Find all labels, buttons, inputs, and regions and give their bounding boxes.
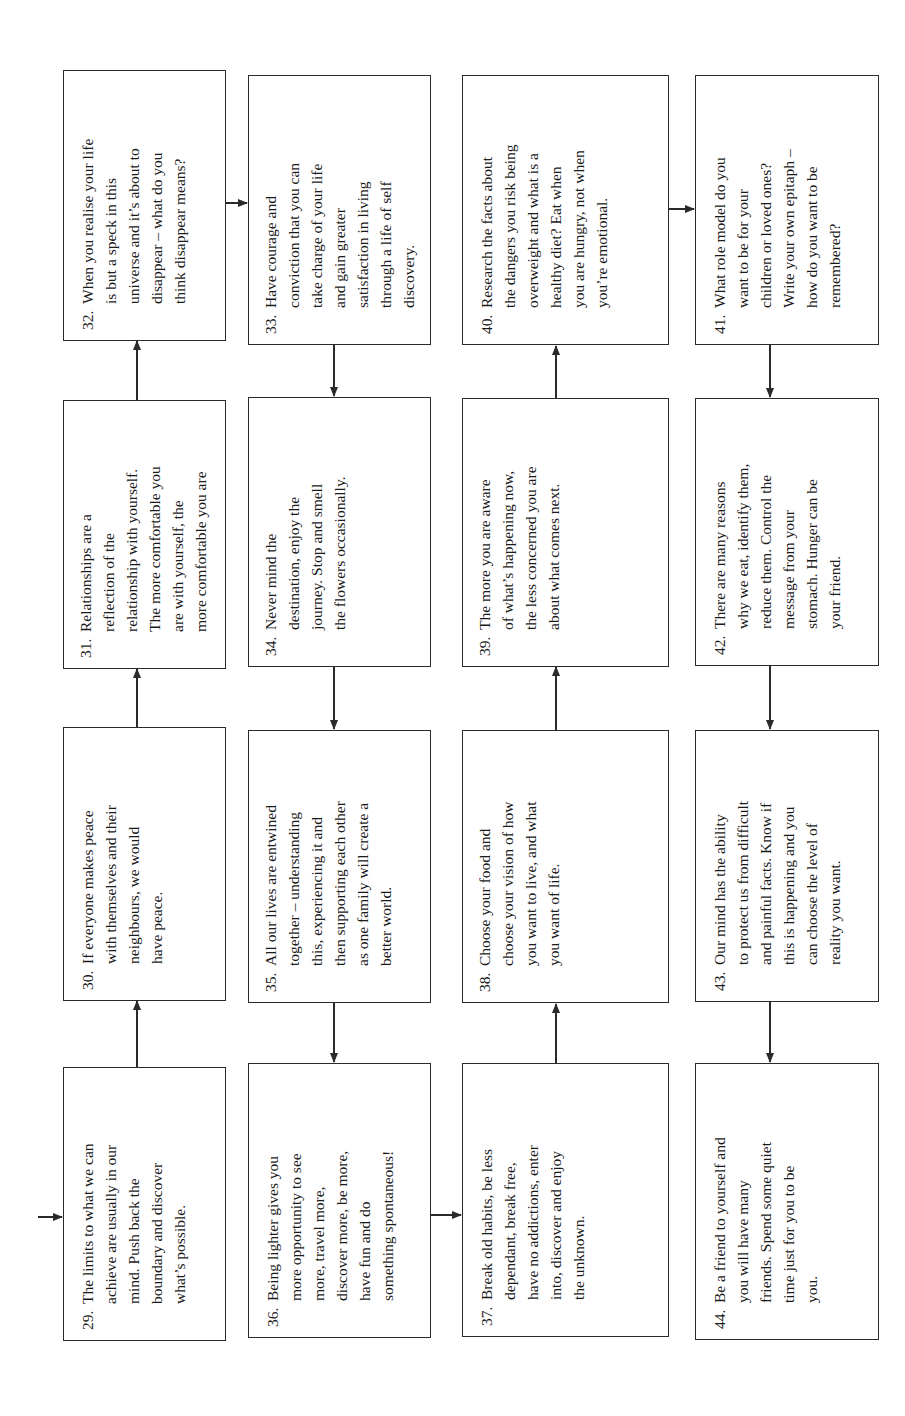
step-text: What role model do you want to be for yo… (708, 84, 846, 308)
step-box-35: 35.All our lives are entwined together –… (248, 730, 431, 1003)
step-text: The limits to what we can achieve are us… (76, 1076, 191, 1304)
step-box-39: 39.The more you are aware of what’s happ… (462, 398, 669, 667)
step-text: When you realise your life is but a spec… (76, 81, 191, 304)
step-box-34: 34.Never mind the destination, enjoy the… (248, 397, 431, 667)
step-box-29: 29.The limits to what we can achieve are… (63, 1067, 226, 1341)
step-text: Relationships are a reflection of the re… (74, 407, 212, 632)
step-number: 42. (708, 629, 846, 655)
step-number: 39. (473, 630, 565, 656)
step-box-38: 38.Choose your food and choose your visi… (462, 730, 669, 1003)
step-number: 43. (708, 965, 846, 991)
step-text: The more you are aware of what’s happeni… (473, 407, 565, 630)
step-text: Our mind has the ability to protect us f… (708, 739, 846, 965)
step-box-30: 30.If everyone makes peace with themselv… (63, 727, 226, 1001)
step-number: 31. (74, 632, 212, 658)
step-text: If everyone makes peace with themselves … (76, 736, 168, 964)
step-number: 36. (261, 1301, 399, 1327)
step-number: 38. (473, 966, 565, 992)
step-box-32: 32.When you realise your life is but a s… (63, 70, 226, 341)
step-box-44: 44.Be a friend to yourself and you will … (695, 1063, 879, 1340)
step-text: Research the facts about the dangers you… (475, 84, 613, 308)
step-box-37: 37.Break old habits, be less dependant, … (462, 1063, 669, 1337)
step-text: All our lives are entwined together – un… (259, 737, 397, 966)
step-number: 44. (708, 1303, 823, 1329)
step-text: Choose your food and choose your vision … (473, 739, 565, 966)
step-number: 30. (76, 964, 168, 990)
step-box-31: 31.Relationships are a reflection of the… (63, 400, 226, 669)
step-number: 40. (475, 308, 613, 334)
step-text: Being lighter gives you more opportunity… (261, 1072, 399, 1301)
step-box-41: 41.What role model do you want to be for… (695, 75, 879, 345)
step-box-40: 40.Research the facts about the dangers … (462, 75, 669, 345)
step-text: Have courage and conviction that you can… (259, 84, 420, 308)
step-number: 33. (259, 308, 420, 334)
step-text: Never mind the destination, enjoy the jo… (259, 406, 351, 630)
step-box-43: 43.Our mind has the ability to protect u… (695, 730, 879, 1002)
step-number: 41. (708, 308, 846, 334)
step-text: Be a friend to yourself and you will hav… (708, 1072, 823, 1303)
step-number: 35. (259, 966, 397, 992)
step-box-36: 36.Being lighter gives you more opportun… (248, 1063, 431, 1338)
step-number: 29. (76, 1304, 191, 1330)
step-number: 32. (76, 304, 191, 330)
step-box-33: 33.Have courage and conviction that you … (248, 75, 431, 345)
step-text: Break old habits, be less dependant, bre… (475, 1072, 590, 1300)
step-number: 34. (259, 630, 351, 656)
step-text: There are many reasons why we eat, ident… (708, 407, 846, 629)
step-number: 37. (475, 1300, 590, 1326)
step-box-42: 42.There are many reasons why we eat, id… (695, 398, 879, 666)
